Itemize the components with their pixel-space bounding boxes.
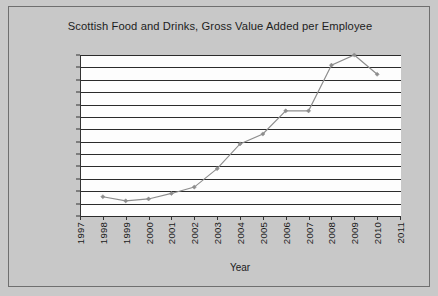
data-point-marker [306, 109, 310, 113]
data-point-marker [329, 63, 333, 67]
data-point-marker [146, 197, 150, 201]
chart-figure: Scottish Food and Drinks, Gross Value Ad… [0, 0, 438, 296]
series-line-gva [103, 55, 377, 201]
data-point-marker [101, 195, 105, 199]
series-markers [101, 53, 379, 203]
data-point-marker [124, 199, 128, 203]
data-point-marker [169, 191, 173, 195]
data-series-layer [0, 0, 438, 296]
x-axis-title: Year [80, 262, 400, 273]
